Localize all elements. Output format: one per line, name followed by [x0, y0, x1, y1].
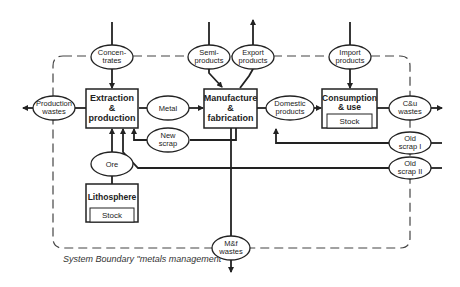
extraction-label-1: Extraction	[90, 93, 134, 103]
lithosphere-label: Lithosphere	[88, 192, 137, 202]
flow-cu-wastes: C&u wastes	[389, 96, 431, 120]
flow-old-scrap-1: Old scrap I	[389, 132, 431, 154]
svg-text:wastes: wastes	[218, 247, 243, 256]
extraction-label-2: &	[109, 103, 116, 113]
consumption-label-2: & use	[338, 102, 361, 112]
material-flow-diagram: System Boundary "metals management"	[0, 0, 460, 287]
flow-new-scrap: New scrap	[147, 128, 189, 152]
flow-export-products: Export products	[232, 45, 274, 69]
manufacture-label-2: &	[227, 103, 234, 113]
manufacture-label-3: fabrication	[207, 113, 253, 123]
flow-import-products: Import products	[329, 45, 371, 69]
flow-domestic-products: Domestic products	[266, 96, 314, 120]
svg-text:Metal: Metal	[159, 104, 178, 113]
svg-text:products: products	[239, 56, 268, 65]
svg-text:scrap: scrap	[159, 139, 177, 148]
svg-text:scrap I: scrap I	[399, 142, 422, 151]
flow-mf-wastes: M&f wastes	[212, 236, 250, 260]
svg-text:trates: trates	[103, 56, 122, 65]
svg-text:products: products	[195, 56, 224, 65]
process-lithosphere: Lithosphere Stock	[86, 184, 138, 222]
flow-ore: Ore	[91, 152, 133, 176]
flow-old-scrap-2: Old scrap II	[389, 157, 431, 179]
svg-text:wastes: wastes	[397, 107, 422, 116]
manufacture-label-1: Manufacture	[204, 93, 258, 103]
extraction-label-3: production	[89, 113, 136, 123]
boundary-caption: System Boundary "metals management"	[63, 254, 225, 264]
process-manufacture: Manufacture & fabrication	[204, 89, 258, 128]
flow-metal: Metal	[147, 96, 189, 120]
flow-semi-products: Semi- products	[188, 45, 230, 69]
consumption-stock-label: Stock	[339, 117, 360, 126]
lithosphere-stock-label: Stock	[102, 211, 123, 220]
flow-concentrates: Concen- trates	[91, 45, 133, 69]
svg-text:wastes: wastes	[41, 107, 66, 116]
svg-text:products: products	[276, 107, 305, 116]
process-extraction: Extraction & production	[86, 89, 138, 128]
process-consumption: Consumption & use Stock	[322, 89, 377, 128]
svg-text:products: products	[336, 56, 365, 65]
svg-text:Ore: Ore	[106, 160, 119, 169]
svg-text:scrap II: scrap II	[398, 167, 423, 176]
flow-production-wastes: Production wastes	[33, 96, 75, 120]
